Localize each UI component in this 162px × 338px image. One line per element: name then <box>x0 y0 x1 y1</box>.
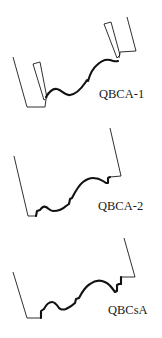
right-slab <box>104 22 120 58</box>
panel-label: QBCA-2 <box>98 199 143 213</box>
profile-qbca-1: QBCA-1 <box>13 17 144 107</box>
panel-label: QBCA-1 <box>99 87 144 101</box>
panel-label: QBCsA <box>108 303 148 317</box>
right-wall <box>110 128 121 177</box>
left-wall <box>13 272 41 318</box>
profile-qbca-2: QBCA-2 <box>14 128 143 216</box>
left-wall <box>13 57 46 107</box>
left-slab <box>33 62 47 100</box>
left-wall <box>14 156 36 216</box>
right-wall <box>121 238 135 277</box>
right-wall <box>119 17 136 58</box>
profile-diagram: QBCA-1 QBCA-2 QBCsA <box>0 0 162 338</box>
profile-qbcsa: QBCsA <box>13 238 148 318</box>
